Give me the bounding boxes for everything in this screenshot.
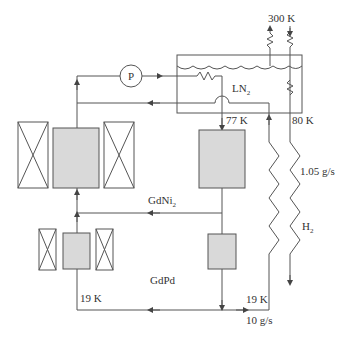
inlet-300k-line (287, 26, 293, 113)
cryocooler-diagram: P LN2 300 K 77 K 80 K 1.05 g/s H2 GdNi2 … (0, 0, 350, 342)
gdni2-bed-right (199, 130, 245, 188)
ln2-label: LN2 (232, 82, 251, 97)
he-heat-exchanger-line (269, 113, 279, 310)
gdpd-label: GdPd (150, 274, 176, 286)
return-line (77, 96, 269, 113)
temp-19k-left: 19 K (80, 292, 102, 304)
temp-300k: 300 K (268, 12, 295, 24)
gdpd-bed-right (208, 234, 236, 269)
h2-label: H2 (302, 220, 314, 235)
temp-19k-right: 19 K (246, 293, 268, 305)
liquid-surface-wave (177, 66, 302, 69)
temp-77k: 77 K (226, 114, 248, 126)
gdni2-label: GdNi2 (148, 194, 176, 209)
pump-inlet-line (77, 76, 120, 128)
he-flow-rate: 10 g/s (246, 314, 273, 326)
h2-flow-rate: 1.05 g/s (300, 165, 335, 177)
temp-80k: 80 K (292, 114, 314, 126)
gdni2-bed-left (53, 128, 99, 188)
outlet-300k-line (267, 28, 273, 66)
gdpd-bed-left (63, 233, 90, 269)
pump-label: P (128, 70, 134, 82)
h2-line (290, 113, 300, 282)
